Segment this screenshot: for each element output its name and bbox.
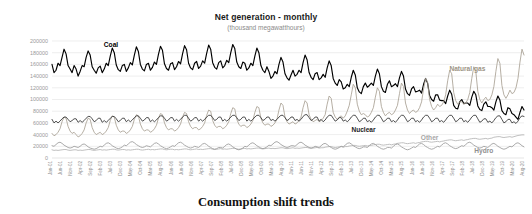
x-axis-tick-label: May-14 (369, 161, 374, 177)
series-label-coal: Coal (104, 41, 118, 48)
y-axis-tick-label: 160000 (30, 61, 48, 67)
figure-caption: Consumption shift trends (0, 195, 532, 210)
x-axis-tick-label: May-19 (490, 161, 495, 177)
series-label-nuclear: Nuclear (351, 126, 376, 133)
x-axis-tick-label: Mar-05 (148, 161, 153, 176)
x-axis-tick-label: Apr-02 (78, 161, 83, 175)
y-axis-tick-label: 40000 (33, 132, 48, 138)
x-axis-tick-label: Jul-08 (229, 161, 234, 174)
x-axis-tick-label: May-04 (128, 161, 133, 177)
x-axis-tick-label: Mar-15 (389, 161, 394, 176)
x-axis-tick-label: Sep-12 (329, 161, 334, 176)
x-axis-tick-label: Jun-06 (179, 161, 184, 175)
x-axis-tick-label: Aug-20 (520, 161, 525, 176)
plot-area: 2000001800001600001400001200001000008000… (0, 0, 532, 186)
x-axis-tick-label: Jul-18 (470, 161, 475, 174)
series-line-nuclear (52, 115, 524, 124)
x-axis-tick-label: Sep-07 (209, 161, 214, 176)
series-line-natural-gas (52, 49, 524, 137)
x-axis-tick-label: Jun-11 (299, 161, 304, 175)
x-axis-tick-label: Aug-05 (158, 161, 163, 176)
y-axis-tick-label: 20000 (33, 143, 48, 149)
series-label-other: Other (421, 134, 439, 141)
x-axis-tick-label: Jan-01 (48, 161, 53, 175)
y-axis-tick-label: 80000 (33, 108, 48, 114)
y-axis-tick-label: 120000 (30, 85, 48, 91)
x-axis-tick-label: Feb-13 (339, 161, 344, 176)
y-axis-tick-label: 60000 (33, 120, 48, 126)
y-axis-tick-label: 0 (45, 155, 48, 161)
y-axis-tick-label: 100000 (30, 96, 48, 102)
x-axis-tick-label: Jun-01 (58, 161, 63, 175)
x-axis-tick-label: Aug-15 (399, 161, 404, 176)
series-label-hydro: Hydro (474, 147, 493, 155)
x-axis-tick-label: Dec-08 (239, 161, 244, 176)
x-axis-tick-label: Feb-03 (98, 161, 103, 176)
x-axis-tick-label: Nov-01 (68, 161, 73, 176)
x-axis-tick-label: Mar-20 (510, 161, 515, 176)
line-chart-svg: 2000001800001600001400001200001000008000… (0, 0, 532, 186)
x-axis-tick-label: Jan-11 (289, 161, 294, 175)
y-axis-tick-label: 200000 (30, 38, 48, 44)
x-axis-tick-label: Dec-03 (118, 161, 123, 176)
x-axis-tick-label: Sep-02 (88, 161, 93, 176)
x-axis-tick-label: Jun-16 (420, 161, 425, 175)
x-axis-tick-label: Apr-07 (199, 161, 204, 175)
x-axis-tick-label: Jan-16 (410, 161, 415, 175)
x-axis-tick-label: Jul-13 (349, 161, 354, 174)
x-axis-tick-label: Nov-16 (430, 161, 435, 176)
x-axis-tick-label: Mar-10 (269, 161, 274, 176)
y-axis-tick-label: 140000 (30, 73, 48, 79)
series-line-coal (52, 45, 524, 120)
x-axis-tick-label: Jul-03 (108, 161, 113, 174)
x-axis-tick-label: Oct-04 (138, 161, 143, 175)
x-axis-tick-label: Apr-17 (440, 161, 445, 175)
x-axis-tick-label: Jan-06 (169, 161, 174, 175)
y-axis-tick-label: 180000 (30, 50, 48, 56)
figure-container: Net generation - monthly (thousand megaw… (0, 0, 532, 214)
series-label-natural-gas: Natural gas (449, 65, 485, 73)
x-axis-tick-label: Feb-18 (460, 161, 465, 176)
x-axis-tick-label: Oct-19 (500, 161, 505, 175)
x-axis-tick-label: Dec-13 (359, 161, 364, 176)
x-axis-tick-label: Oct-14 (379, 161, 384, 175)
x-axis-tick-label: Oct-09 (259, 161, 264, 175)
x-axis-tick-label: Apr-12 (319, 161, 324, 175)
x-axis-tick-label: Feb-08 (219, 161, 224, 176)
x-axis-tick-label: Dec-18 (480, 161, 485, 176)
x-axis-tick-label: Sep-17 (450, 161, 455, 176)
x-axis-tick-label: Aug-10 (279, 161, 284, 176)
x-axis-tick-label: Nov-06 (189, 161, 194, 176)
x-axis-tick-label: Nov-11 (309, 161, 314, 176)
x-axis-tick-label: May-09 (249, 161, 254, 177)
